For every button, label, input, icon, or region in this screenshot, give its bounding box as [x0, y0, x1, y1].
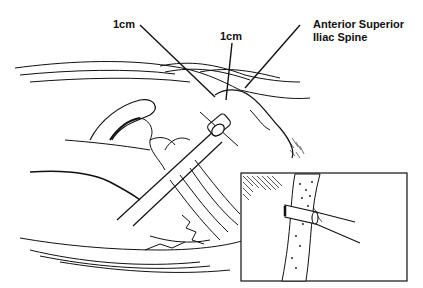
inset-detail: [241, 173, 407, 281]
pin-instrument: [117, 112, 238, 226]
shading-right: [288, 138, 304, 158]
anatomy-illustration: [0, 0, 423, 288]
label-asis-line2: Iliac Spine: [313, 31, 367, 43]
label-left-1cm: 1cm: [113, 18, 135, 30]
label-asis-line1: Anterior Superior: [313, 18, 404, 30]
illustration-canvas: 1cm 1cm Anterior Superior Iliac Spine: [0, 0, 423, 288]
label-center-1cm: 1cm: [220, 30, 242, 42]
